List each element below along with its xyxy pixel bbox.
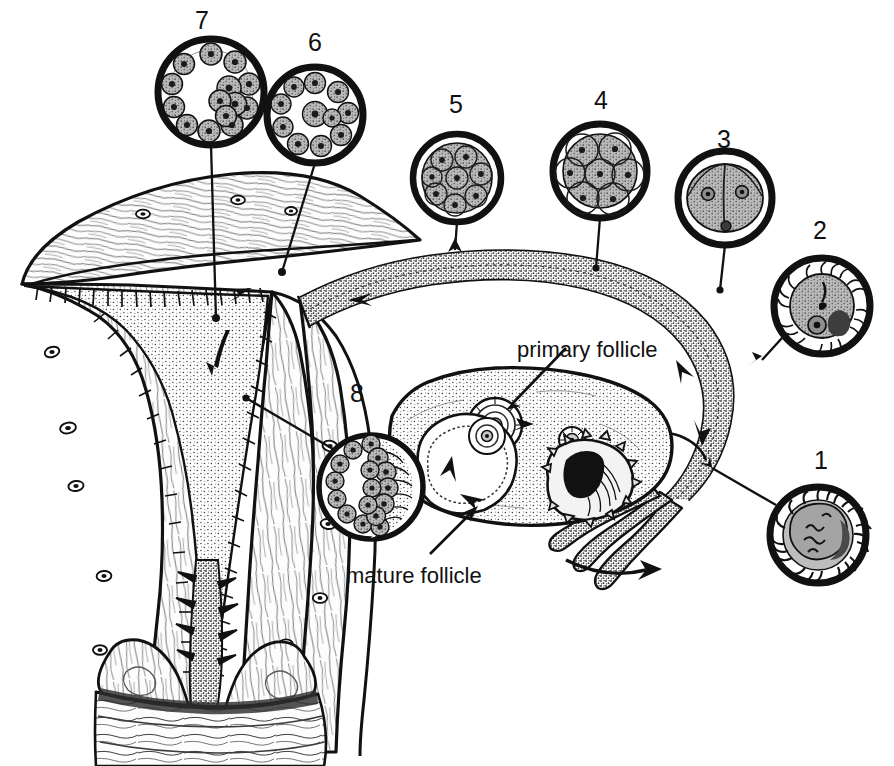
stage-label-3: 3 xyxy=(717,127,731,152)
ovary xyxy=(389,368,672,527)
mature-follicle-label: mature follicle xyxy=(346,565,482,587)
stage-label-4: 4 xyxy=(594,88,608,113)
anatomy-illustration xyxy=(0,0,894,766)
stage-label-7: 7 xyxy=(195,8,209,33)
stage-label-8: 8 xyxy=(350,381,364,406)
inset-circle-5 xyxy=(413,134,501,222)
stage-label-2: 2 xyxy=(813,218,827,243)
inset-circle-6 xyxy=(267,67,363,163)
inset-circle-1 xyxy=(770,487,871,583)
uterine-cavity xyxy=(26,286,276,704)
primary-follicle-label: primary follicle xyxy=(517,339,658,361)
stage-label-1: 1 xyxy=(814,448,828,473)
inset-circle-4 xyxy=(553,124,647,218)
stage-label-6: 6 xyxy=(308,30,322,55)
inset-circle-8 xyxy=(319,435,423,539)
broad-ligament xyxy=(22,173,420,286)
inset-circle-3 xyxy=(678,151,772,245)
stage-label-5: 5 xyxy=(449,92,463,117)
figure-canvas: 7 6 5 4 3 2 1 8 primary follicle mature … xyxy=(0,0,894,766)
inset-circle-2 xyxy=(774,258,870,356)
inset-circle-7 xyxy=(158,39,264,145)
